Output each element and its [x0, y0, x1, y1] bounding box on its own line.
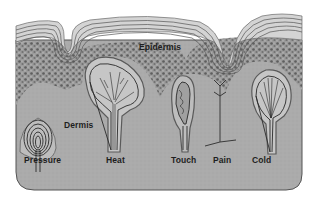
- label-dermis: Dermis: [64, 120, 93, 130]
- label-pressure: Pressure: [24, 155, 61, 165]
- label-cold: Cold: [252, 155, 271, 165]
- label-pain: Pain: [213, 155, 231, 165]
- skin-receptors-diagram: Epidermis Dermis Pressure Heat Touch Pai…: [0, 0, 314, 200]
- label-heat: Heat: [106, 155, 125, 165]
- label-epidermis: Epidermis: [139, 42, 181, 52]
- skin-cross-section-illustration: [0, 0, 314, 200]
- label-touch: Touch: [171, 155, 196, 165]
